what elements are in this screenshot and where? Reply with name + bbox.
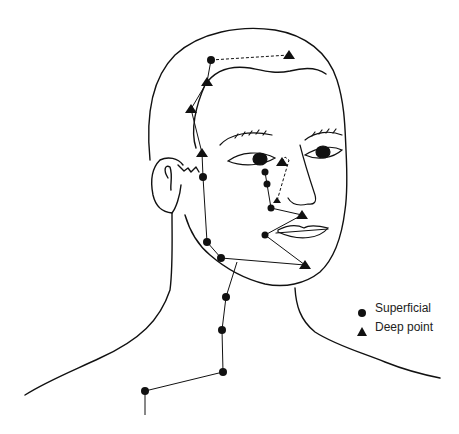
legend-label: Superficial: [375, 299, 431, 318]
head-neck-acupoint-diagram: [0, 0, 459, 434]
legend-item-superficial: Superficial: [357, 299, 433, 318]
legend: Superficial Deep point: [357, 299, 433, 337]
head-outline: [25, 28, 440, 395]
legend-label: Deep point: [375, 318, 433, 337]
legend-item-deep-point: Deep point: [357, 318, 433, 337]
circle-icon: [358, 309, 366, 317]
facial-features: [220, 129, 342, 238]
superficial-points: [141, 56, 275, 395]
meridian-lines: [145, 55, 305, 415]
triangle-icon: [357, 327, 367, 336]
